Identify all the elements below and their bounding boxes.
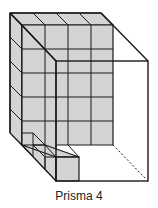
prism-figure — [0, 0, 158, 190]
left-wall-cubes — [10, 13, 22, 145]
figure-caption: Prisma 4 — [0, 189, 158, 203]
hidden-edge — [113, 145, 146, 179]
prism-diagram — [0, 0, 158, 190]
front-cube-face — [56, 157, 79, 181]
